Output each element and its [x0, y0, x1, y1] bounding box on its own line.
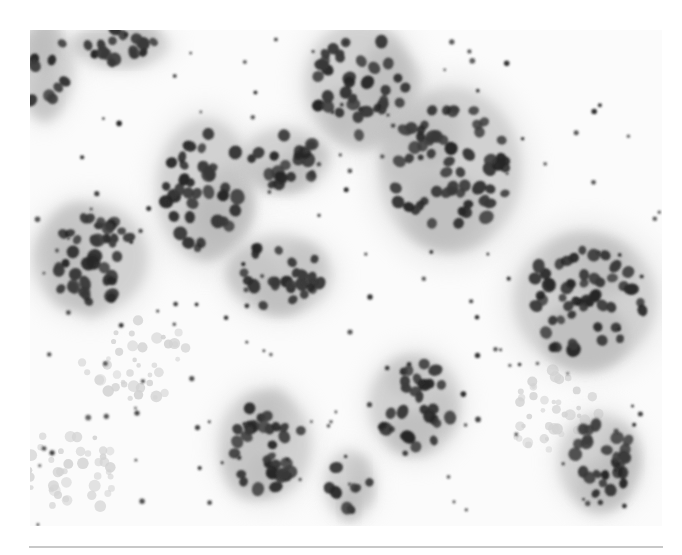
scattered-cell	[38, 464, 41, 467]
scattered-cell	[344, 455, 347, 458]
debris	[134, 390, 143, 399]
scattered-cell	[66, 310, 71, 315]
scattered-cell	[173, 74, 177, 78]
debris	[530, 383, 538, 391]
debris	[175, 328, 183, 336]
scattered-cell	[242, 422, 246, 426]
scattered-cell	[475, 315, 479, 319]
scattered-cell	[138, 229, 142, 233]
scattered-cell	[310, 420, 313, 423]
debris	[62, 495, 73, 506]
scattered-cell	[506, 172, 509, 175]
scattered-cell	[50, 450, 55, 455]
scattered-cell	[389, 426, 395, 432]
scattered-cell	[631, 405, 634, 408]
debris	[77, 457, 89, 469]
debris	[515, 421, 525, 431]
scattered-cell	[407, 362, 412, 367]
scattered-cell	[504, 61, 510, 67]
scattered-cell	[244, 287, 249, 292]
debris	[89, 480, 101, 492]
scattered-cell	[518, 363, 521, 366]
scattered-cell	[80, 155, 84, 159]
scattered-cell	[598, 500, 603, 505]
debris	[48, 480, 59, 491]
scattered-cell	[104, 414, 109, 419]
scattered-cell	[311, 50, 314, 53]
debris	[518, 388, 524, 394]
scattered-cell	[329, 420, 333, 424]
scattered-cell	[129, 240, 133, 244]
debris	[76, 447, 86, 457]
scattered-cell	[253, 91, 257, 95]
scattered-cell	[208, 420, 211, 423]
scattered-cell	[429, 250, 433, 254]
scattered-cell	[135, 459, 138, 462]
scattered-cell	[165, 200, 168, 203]
scattered-cell	[146, 206, 151, 211]
debris	[181, 343, 191, 353]
scattered-cell	[386, 113, 389, 116]
debris	[39, 433, 46, 440]
debris	[137, 342, 147, 352]
scattered-cell	[452, 500, 455, 503]
scattered-cell	[94, 191, 99, 196]
scattered-cell	[263, 349, 266, 352]
scattered-cell	[418, 154, 424, 160]
page	[0, 0, 682, 555]
debris	[172, 341, 178, 347]
scattered-cell	[632, 423, 636, 427]
debris	[94, 375, 104, 385]
scattered-cell	[67, 237, 70, 240]
scattered-cell	[422, 277, 426, 281]
cytology-micrograph-image	[30, 30, 662, 526]
scattered-cell	[173, 302, 178, 307]
scattered-cell	[622, 504, 627, 509]
cluster-cytoplasm-lobe	[543, 301, 628, 370]
scattered-cell	[298, 478, 301, 481]
debris	[526, 414, 532, 420]
scattered-cell	[189, 376, 194, 381]
debris	[515, 397, 525, 407]
scattered-cell	[245, 303, 250, 308]
scattered-cell	[467, 49, 471, 53]
debris	[84, 369, 90, 375]
debris	[133, 315, 143, 325]
debris	[87, 491, 96, 500]
scattered-cell	[285, 457, 289, 461]
debris	[115, 348, 123, 356]
scattered-cell	[116, 121, 122, 127]
scattered-cell	[562, 462, 565, 465]
scattered-cell	[597, 251, 601, 255]
scattered-cell	[134, 410, 139, 415]
scattered-cell	[156, 310, 159, 313]
scattered-cell	[317, 214, 321, 218]
debris	[92, 435, 97, 440]
debris	[63, 459, 73, 469]
scattered-cell	[638, 411, 643, 416]
scattered-cell	[139, 499, 144, 504]
nucleus	[375, 35, 387, 49]
scattered-cell	[582, 498, 585, 501]
scattered-cell	[591, 180, 596, 185]
scattered-cell	[207, 500, 212, 505]
debris	[147, 373, 152, 378]
scattered-cell	[486, 252, 489, 255]
scattered-cell	[103, 361, 108, 366]
scattered-cell	[475, 417, 481, 423]
scattered-cell	[339, 153, 342, 156]
scattered-cell	[614, 468, 618, 472]
scattered-cell	[465, 508, 468, 511]
scattered-cell	[614, 428, 619, 433]
debris	[573, 386, 581, 394]
scattered-cell	[241, 262, 245, 266]
scattered-cell	[141, 379, 145, 383]
debris	[525, 441, 532, 448]
debris	[113, 330, 118, 335]
debris	[552, 405, 561, 414]
scattered-cell	[658, 211, 661, 214]
debris	[588, 392, 597, 401]
scattered-cell	[591, 109, 597, 115]
scattered-cell	[464, 423, 468, 427]
scattered-cell	[243, 60, 247, 64]
